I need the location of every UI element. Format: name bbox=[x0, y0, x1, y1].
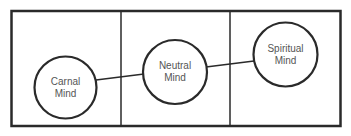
label-neutral-mind: Neutral Mind bbox=[145, 60, 205, 84]
label-neutral-line2: Mind bbox=[145, 72, 205, 84]
label-carnal-line2: Mind bbox=[36, 88, 96, 100]
label-neutral-line1: Neutral bbox=[145, 60, 205, 72]
label-spiritual-mind: Spiritual Mind bbox=[256, 43, 316, 67]
label-spiritual-line2: Mind bbox=[256, 55, 316, 67]
label-spiritual-line1: Spiritual bbox=[256, 43, 316, 55]
label-carnal-line1: Carnal bbox=[36, 76, 96, 88]
label-carnal-mind: Carnal Mind bbox=[36, 76, 96, 100]
edge-carnal-to-neutral bbox=[96, 74, 144, 80]
